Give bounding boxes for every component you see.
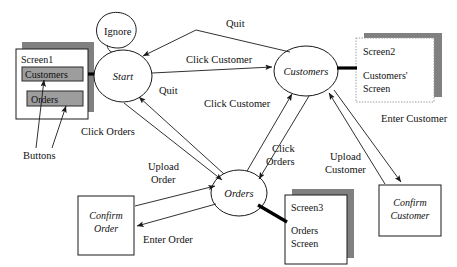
edge-enter-order xyxy=(137,204,216,226)
confirm-order-line1: Confirm xyxy=(89,210,122,221)
label-enter-order: Enter Order xyxy=(143,234,193,245)
buttons-label: Buttons xyxy=(23,150,56,161)
label-quit-top: Quit xyxy=(226,18,245,29)
screen3-caption-2: Screen xyxy=(291,238,318,249)
label-enter-customer: Enter Customer xyxy=(381,113,448,124)
edge-click-customer-start xyxy=(152,67,272,73)
confirm-order-line2: Order xyxy=(94,223,118,234)
label-click-customer-mid: Click Customer xyxy=(204,98,271,109)
screen1-button-customers[interactable]: Customers xyxy=(22,67,83,81)
edge-upload-order xyxy=(135,186,215,206)
customers-label: Customers xyxy=(284,66,329,77)
edge-quit-customers-start xyxy=(143,30,290,56)
screen3-caption-1: Orders xyxy=(291,225,318,236)
start-label: Start xyxy=(113,71,135,82)
state-diagram-svg: Screen1 Customers Orders Buttons Ignore … xyxy=(0,0,457,267)
label-quit-mid: Quit xyxy=(159,85,178,96)
screen1-button-orders[interactable]: Orders xyxy=(27,91,83,106)
ignore-label: Ignore xyxy=(104,26,132,37)
screen2-title: Screen2 xyxy=(363,46,395,57)
process-confirm-customer[interactable]: Confirm Customer xyxy=(379,185,441,236)
orders-label: Orders xyxy=(224,188,253,199)
label-click-orders-left: Click Orders xyxy=(81,126,135,137)
label-click-orders-right-2: Orders xyxy=(266,156,295,167)
label-click-customer-top: Click Customer xyxy=(186,54,253,65)
confirm-customer-line2: Customer xyxy=(391,210,430,221)
button-orders-label: Orders xyxy=(31,94,58,105)
screen2-caption-1: Customers' xyxy=(363,70,408,81)
screen3-title: Screen3 xyxy=(291,202,323,213)
state-ignore[interactable]: Ignore xyxy=(97,12,137,52)
label-click-orders-right-1: Click xyxy=(272,143,295,154)
label-upload-order-1: Upload xyxy=(148,161,180,172)
screen1-window[interactable]: Screen1 Customers Orders xyxy=(16,42,94,119)
screen1-title: Screen1 xyxy=(21,54,53,65)
screen3-window[interactable]: Screen3 Orders Screen xyxy=(285,189,354,264)
diagram-canvas: Screen1 Customers Orders Buttons Ignore … xyxy=(0,0,457,267)
label-upload-customer-2: Customer xyxy=(325,164,366,175)
orders-screen3-connector xyxy=(258,205,287,222)
process-confirm-order[interactable]: Confirm Order xyxy=(78,196,134,255)
label-upload-customer-1: Upload xyxy=(330,151,362,162)
label-upload-order-2: Order xyxy=(151,174,176,185)
button-customers-label: Customers xyxy=(25,69,68,80)
screen2-window[interactable]: Screen2 Customers' Screen xyxy=(356,33,442,102)
screen2-caption-2: Screen xyxy=(363,83,390,94)
confirm-customer-line1: Confirm xyxy=(393,197,426,208)
